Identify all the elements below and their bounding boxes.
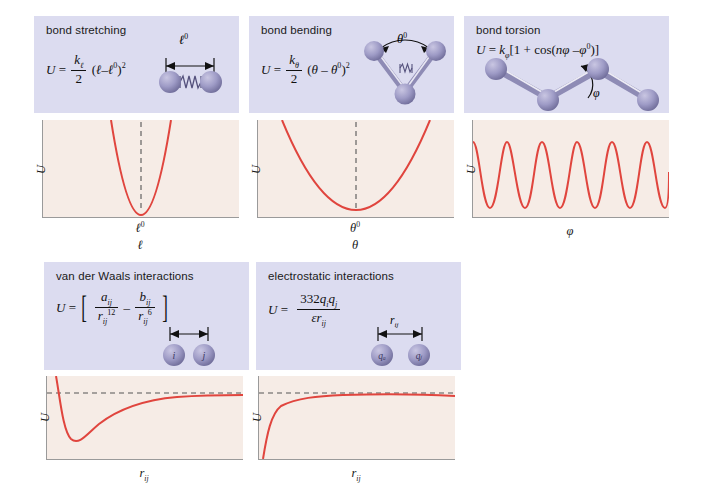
measure-arrow [170, 327, 208, 341]
diagram-two-atoms-spring: ℓ0 [154, 34, 232, 104]
atom-sphere [395, 84, 416, 105]
formula-fraction-repulsive: aij rij12 [95, 290, 119, 326]
measure-label-phi: φ [593, 86, 600, 101]
fraction-numerator: kℓ [71, 53, 86, 71]
atom-sphere [637, 89, 659, 111]
x-tick-sup: 0 [141, 220, 145, 229]
x-axis-label-bond-bending: θ [325, 238, 385, 253]
panel-bond-bending: bond bending U = kθ 2 (θ – θ0)2 [249, 16, 454, 256]
formula-equals: = [489, 43, 496, 58]
measure-label-l0: ℓ0 [179, 32, 188, 48]
graph-bond-bending [257, 120, 454, 218]
atom-sphere [200, 71, 222, 93]
x-tick-label-bond-stretching: ℓ0 [110, 220, 170, 236]
figure-canvas: bond stretching U = kℓ 2 (ℓ–ℓ0)2 [0, 0, 704, 493]
formula-electrostatic: U = 332qiqj εrij [268, 293, 342, 329]
formula-fraction: kθ 2 [286, 53, 302, 86]
x-axis-label-bond-torsion: φ [540, 224, 600, 239]
q-subscript-j: j [335, 300, 337, 309]
panel-title: electrostatic interactions [268, 269, 449, 283]
y-axis-label-bond-bending: U [249, 155, 264, 185]
r-subscript: ij [103, 317, 107, 326]
y-axis-label-bond-torsion: U [464, 155, 479, 185]
panel-bond-stretching: bond stretching U = kℓ 2 (ℓ–ℓ0)2 [34, 16, 239, 256]
diagram-four-atoms-dihedral: φ [476, 58, 661, 113]
atom-label-qi: qₐ [378, 351, 386, 361]
constant-332: 332 [300, 291, 320, 306]
plot-area-bond-bending [258, 120, 454, 217]
graph-bond-stretching [42, 120, 239, 218]
atom-sphere [364, 41, 384, 61]
k-subscript: θ [295, 61, 299, 70]
atom-sphere [426, 41, 446, 61]
fraction-denominator: 2 [286, 71, 302, 87]
formula-equals: = [274, 62, 281, 77]
bond-rods [498, 70, 646, 98]
diagram-two-atoms-vdw: i j [160, 320, 240, 368]
minus-sign: – [124, 301, 131, 316]
atom-label-qj: qⱼ [416, 351, 424, 361]
atom-label-i: i [173, 350, 176, 361]
r-subscript: ij [143, 317, 147, 326]
x-axis-label-bond-stretching: ℓ [110, 238, 170, 253]
measure-label-rij: rij [390, 314, 398, 329]
measure-label-theta0: θ0 [397, 31, 407, 47]
formula-bond-bending: U = kθ 2 (θ – θ0)2 [261, 54, 350, 87]
formula-box-van-der-waals: van der Waals interactions U = [ aij rij… [44, 262, 249, 370]
fraction-denominator: εrij [297, 310, 340, 328]
measure-label-sup: 0 [403, 31, 407, 40]
formula-symbol-U: U [261, 62, 270, 77]
measure-label-sub: ij [394, 321, 398, 329]
diagram-three-atoms-angle: θ0 [361, 28, 449, 108]
formula-van-der-waals: U = [ aij rij12 – bij rij6 ] [56, 291, 170, 327]
graph-van-der-waals [46, 376, 243, 460]
plot-area-bond-stretching [43, 120, 239, 217]
r-exponent-6: 6 [148, 308, 152, 317]
fraction-denominator: 2 [71, 71, 86, 87]
x-tick-sup: 0 [356, 220, 360, 229]
superscript-square: 2 [346, 62, 350, 71]
panel-electrostatic: electrostatic interactions U = 332qiqj ε… [256, 262, 461, 487]
diagram-two-atoms-charges: qₐ qⱼ rij [366, 316, 452, 368]
curve-coulomb [263, 394, 455, 459]
fraction-denominator: rij6 [135, 308, 155, 327]
fraction-numerator: 332qiqj [297, 292, 340, 310]
phi-symbol: φ [562, 43, 569, 58]
atom-sphere [159, 71, 181, 93]
spring-coil [400, 64, 412, 73]
measure-label-sup: 0 [184, 32, 188, 41]
formula-fraction: kℓ 2 [71, 53, 86, 86]
y-axis-label-van-der-waals: U [38, 403, 53, 433]
y-axis-label-electrostatic: U [250, 403, 265, 433]
formula-box-bond-bending: bond bending U = kθ 2 (θ – θ0)2 [249, 16, 454, 113]
x-label-sub: ij [144, 474, 148, 483]
fraction-numerator: bij [135, 290, 155, 308]
formula-symbol-U: U [268, 302, 277, 317]
measure-arrow [378, 327, 422, 341]
curve-lennard-jones [56, 376, 243, 441]
a-subscript: ij [107, 298, 111, 307]
r-subscript: ij [322, 319, 326, 328]
curve-cosine [473, 142, 669, 208]
minus-sign: – [321, 62, 328, 77]
fraction-numerator: kθ [286, 53, 302, 71]
plot-area-van-der-waals [47, 376, 243, 459]
plot-area-electrostatic [259, 376, 455, 459]
formula-box-electrostatic: electrostatic interactions U = 332qiqj ε… [256, 262, 461, 370]
bracket-open-group: [1 + cos( [509, 43, 555, 58]
formula-bond-stretching: U = kℓ 2 (ℓ–ℓ0)2 [46, 54, 126, 87]
x-label-sub: ij [356, 474, 360, 483]
formula-equals: = [69, 301, 76, 316]
plot-area-bond-torsion [473, 120, 669, 217]
formula-box-bond-stretching: bond stretching U = kℓ 2 (ℓ–ℓ0)2 [34, 16, 239, 113]
atom-sphere [587, 58, 609, 80]
atom-sphere [485, 58, 507, 80]
panel-title: bond torsion [476, 23, 657, 37]
y-axis-label-bond-stretching: U [34, 155, 49, 185]
graph-bond-torsion [472, 120, 669, 218]
b-subscript: ij [146, 298, 150, 307]
x-axis-label-van-der-waals: rij [114, 466, 174, 483]
x-tick-label-bond-bending: θ0 [325, 220, 385, 236]
spring-coil [180, 76, 201, 88]
formula-equals: = [59, 62, 66, 77]
